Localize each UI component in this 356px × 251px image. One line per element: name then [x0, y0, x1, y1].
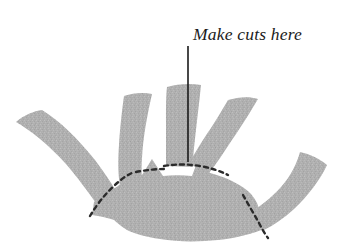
hand-form-group — [16, 84, 327, 241]
annotation-label: Make cuts here — [193, 24, 302, 44]
diagram-canvas — [0, 0, 356, 251]
finger-1-far-left — [16, 110, 118, 203]
figure-root: Make cuts here — [0, 0, 356, 251]
